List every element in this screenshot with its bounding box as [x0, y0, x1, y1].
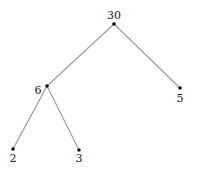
edge-30-6 [47, 24, 114, 86]
node-label-3: 3 [76, 152, 83, 165]
node-label-2: 2 [10, 152, 17, 165]
node-label-30: 30 [107, 9, 121, 22]
node-dot-30 [112, 22, 116, 26]
edge-30-5 [114, 24, 180, 88]
node-label-6: 6 [35, 84, 42, 97]
edge-6-2 [13, 86, 47, 149]
node-label-5: 5 [177, 92, 184, 105]
factor-tree-diagram: 306523 [0, 0, 197, 172]
edge-6-3 [47, 86, 79, 150]
node-dot-2 [11, 147, 15, 151]
tree-nodes: 306523 [10, 9, 184, 165]
node-dot-5 [178, 86, 182, 90]
node-dot-6 [45, 84, 49, 88]
